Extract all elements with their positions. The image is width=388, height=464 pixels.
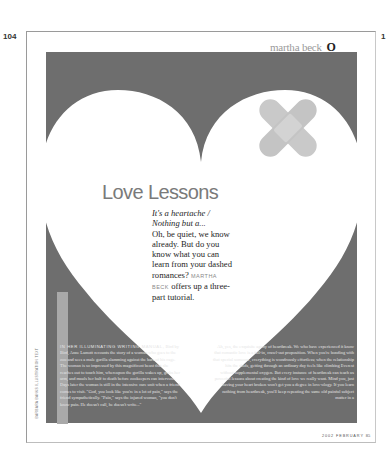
folio: 2002 FEBRUARY 85	[322, 433, 370, 438]
article-title: Love Lessons	[102, 181, 218, 204]
left-page-number: 104	[3, 32, 16, 41]
photo-credit: BARBARA BANKS ILLUSTRATION TEXT	[33, 345, 39, 420]
right-page-number: 1	[381, 32, 385, 41]
folio-page: 85	[366, 433, 371, 438]
article-deck: It's a heartache / Nothing but a... Oh, …	[152, 208, 234, 303]
crossed-bandage-icon	[248, 88, 328, 168]
running-head-author: martha beck	[270, 41, 322, 53]
folio-label: 2002 FEBRUARY	[322, 434, 364, 438]
running-head: martha beck O	[270, 40, 336, 55]
photo-credit-text: BARBARA BANKS ILLUSTRATION TEXT	[35, 344, 39, 419]
column-lead-in: IN HER ILLUMINATING WRITING MANUAL,	[60, 344, 164, 349]
body-column-left: IN HER ILLUMINATING WRITING MANUAL, Bird…	[60, 344, 180, 408]
column-left-text: Bird by Bird, Anne Lamott recounts the s…	[60, 344, 180, 407]
body-column-right: Ah, yes, the exquisite agony of heartbre…	[212, 344, 354, 402]
deck-italic: It's a heartache / Nothing but a...	[152, 208, 234, 229]
magazine-logo: O	[326, 40, 335, 54]
